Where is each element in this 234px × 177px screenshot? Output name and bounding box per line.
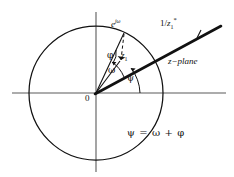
label-reciprocal-conjugate: 1/z1* — [160, 17, 177, 31]
label-z-plane: z−plane — [168, 57, 198, 66]
label-origin: 0 — [85, 94, 90, 103]
label-angle-phi: φ — [107, 51, 113, 60]
label-z1: z1 — [121, 51, 127, 63]
z-plane-figure: ejω 1/z1* z−plane z1 φ ω ψ 0 ψ = ω + φ — [0, 0, 234, 177]
vector-to-unit-circle-point — [96, 33, 124, 93]
ray-to-reciprocal-conjugate — [95, 26, 221, 94]
label-angle-psi: ψ — [127, 74, 134, 83]
label-angle-omega: ω — [108, 66, 115, 75]
relation-equation: ψ = ω + φ — [127, 128, 185, 138]
label-unit-circle-point: ejω — [111, 19, 121, 29]
